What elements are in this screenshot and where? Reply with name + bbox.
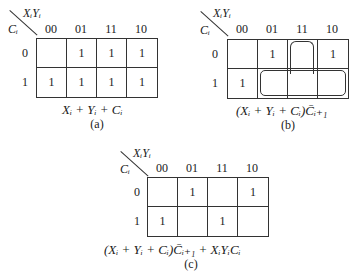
column-header: 11 [96,22,126,37]
kmap-cell [228,40,258,69]
kmap-caption: (c) [176,257,206,272]
row-header: 1 [18,75,32,90]
kmap-caption: (b) [273,118,303,133]
kmap-cell: 1 [97,39,127,68]
column-header: 10 [237,161,267,176]
row-variable-label: Cᵢ [120,162,130,177]
kmap-cell: 1 [127,39,157,68]
kmap-cell: 1 [67,68,97,97]
kmap-cell: 1 [208,207,238,236]
kmap-cell: 1 [178,178,208,207]
column-header: 00 [147,161,177,176]
kmap-cell: 1 [37,68,67,97]
kmap-cell: 1 [67,39,97,68]
kmap-cell: 1 [258,40,288,69]
column-header: 11 [207,161,237,176]
kmap-expression: (Xᵢ + Yᵢ + Cᵢ)C̄ᵢ₊₁ + XᵢYᵢCᵢ [104,242,241,258]
column-header: 00 [227,22,257,37]
kmap-cell [238,207,268,236]
column-header: 10 [317,22,347,37]
row-variable-label: Cᵢ [8,22,18,37]
kmap-cell: 1 [318,40,348,69]
kmap-cell [208,178,238,207]
kmap-cell [37,39,67,68]
kmap-cell [148,178,178,207]
kmap-expression: Xᵢ + Yᵢ + Cᵢ [62,102,123,118]
row-header: 1 [208,76,222,91]
column-header: 01 [257,22,287,37]
kmap-cell [178,207,208,236]
column-variable-label: XᵢYᵢ [133,146,151,161]
row-variable-label: Cᵢ [200,23,210,38]
column-header: 01 [177,161,207,176]
column-header: 00 [36,22,66,37]
kmap-cell: 1 [97,68,127,97]
kmap-grid: 1 1 1 1 [147,177,269,237]
kmap-cell: 1 [238,178,268,207]
column-header: 01 [66,22,96,37]
row-header: 1 [130,214,144,229]
kmap-caption: (a) [82,117,112,132]
row-header: 0 [130,185,144,200]
column-variable-label: XᵢYᵢ [23,6,41,21]
column-header: 11 [287,22,317,37]
kmap-cell: 1 [228,69,258,98]
column-variable-label: XᵢYᵢ [213,6,231,21]
row-header: 0 [18,46,32,61]
row-header: 0 [208,47,222,62]
kmap-cell: 1 [148,207,178,236]
grouping-loop-lower [260,70,346,96]
kmap-grid: 1 1 1 1 1 1 1 [36,38,158,98]
column-header: 10 [126,22,156,37]
kmap-expression: (Xᵢ + Yᵢ + Cᵢ)C̄ᵢ₊₁ [236,103,327,119]
kmap-cell: 1 [127,68,157,97]
